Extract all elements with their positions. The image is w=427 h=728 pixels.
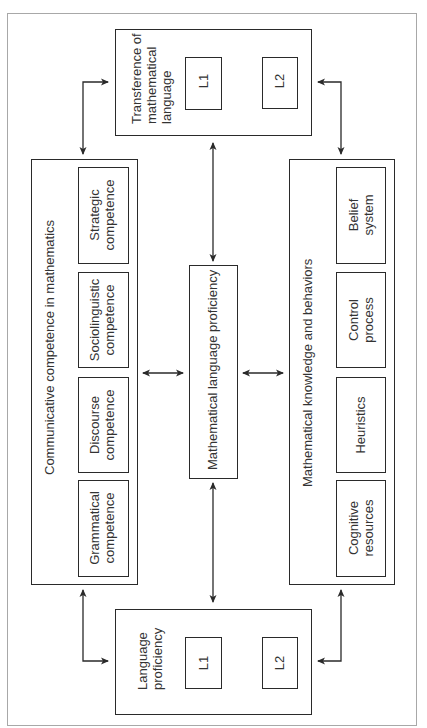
discourse-competence-label: Discourse competence [87, 380, 117, 470]
strategic-competence-label: Strategic competence [87, 170, 117, 260]
language-l2-label: L2 [272, 653, 287, 673]
communicative-competence-label: Communicative competence in mathematics [42, 95, 57, 475]
belief-system-label: Belief system [346, 170, 376, 260]
math-knowledge-label: Mathematical knowledge and behaviors [300, 107, 315, 487]
sociolinguistic-competence-label: Sociolinguistic competence [87, 275, 117, 365]
math-language-proficiency-label: Mathematical language proficiency [205, 274, 220, 470]
cognitive-resources-label: Cognitive resources [346, 483, 376, 573]
grammatical-competence-label: Grammatical competence [87, 483, 117, 573]
transference-label: Transference of mathematical language [125, 34, 180, 130]
transference-l2-label: L2 [272, 71, 287, 91]
language-proficiency-label: Language proficiency [135, 620, 165, 690]
heuristics-label: Heuristics [353, 380, 368, 470]
control-process-label: Control process [346, 275, 376, 365]
language-l1-label: L1 [196, 653, 211, 673]
transference-l1-label: L1 [196, 71, 211, 91]
